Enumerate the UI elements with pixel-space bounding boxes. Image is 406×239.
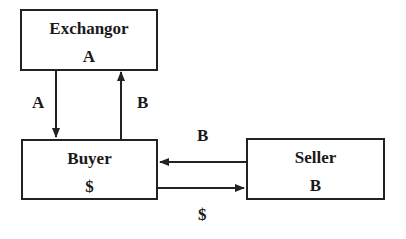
buyer-title: Buyer (23, 149, 156, 169)
buyer-box: Buyer $ (21, 139, 158, 200)
exchangor-title: Exchangor (22, 19, 156, 39)
edge-label-seller-to-buyer: B (197, 127, 208, 145)
edge-label-exchangor-to-buyer: A (32, 94, 44, 112)
edge-label-buyer-to-seller: $ (198, 206, 207, 224)
exchangor-value: A (22, 47, 156, 67)
buyer-value: $ (23, 177, 156, 197)
seller-box: Seller B (246, 138, 385, 200)
seller-title: Seller (248, 148, 383, 168)
seller-value: B (248, 176, 383, 196)
exchangor-box: Exchangor A (20, 9, 158, 71)
edge-label-buyer-to-exchangor: B (137, 94, 148, 112)
